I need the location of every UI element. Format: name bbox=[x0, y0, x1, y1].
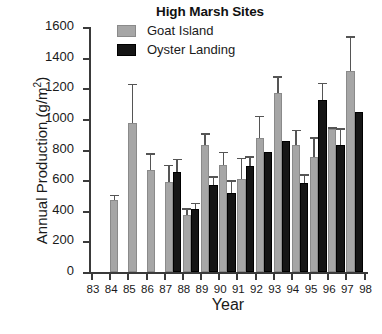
error-bar-cap bbox=[128, 84, 137, 86]
x-tick bbox=[364, 273, 366, 280]
x-tick-label: 92 bbox=[247, 283, 267, 295]
error-bar-line bbox=[295, 130, 297, 145]
bar-oyster-landing-93 bbox=[282, 141, 290, 272]
error-bar-line bbox=[168, 165, 170, 183]
error-bar-line bbox=[313, 137, 315, 157]
legend-item-oyster[interactable]: Oyster Landing bbox=[117, 41, 277, 58]
x-tick bbox=[291, 273, 293, 280]
error-bar-cap bbox=[273, 76, 282, 78]
y-tick: 400 bbox=[83, 211, 90, 213]
error-bar-cap bbox=[237, 158, 246, 160]
error-bar-line bbox=[277, 76, 279, 93]
y-tick: 1200 bbox=[83, 88, 90, 90]
error-bar-cap bbox=[245, 156, 254, 158]
y-axis-title-exponent: 2 bbox=[32, 82, 43, 88]
error-bar-line bbox=[204, 133, 206, 144]
bar-goat-island-97 bbox=[346, 71, 354, 272]
legend-label: Goat Island bbox=[147, 23, 214, 38]
error-bar-cap bbox=[146, 153, 155, 155]
error-bar-line bbox=[350, 36, 352, 70]
x-tick bbox=[91, 273, 93, 280]
chart-legend: Goat IslandOyster Landing bbox=[117, 22, 277, 60]
y-tick: 1400 bbox=[83, 58, 90, 60]
y-tick-label: 0 bbox=[67, 263, 74, 278]
error-bar-line bbox=[322, 83, 324, 100]
error-bar-cap bbox=[182, 208, 191, 210]
error-bar-cap bbox=[110, 195, 119, 197]
chart-figure: High Marsh Sites Annual Production (g/m2… bbox=[0, 0, 382, 334]
error-bar-line bbox=[259, 116, 261, 138]
legend-swatch-icon bbox=[117, 25, 136, 37]
bar-oyster-landing-92 bbox=[264, 152, 272, 272]
bar-goat-island-84 bbox=[110, 200, 118, 272]
bar-oyster-landing-89 bbox=[209, 185, 217, 272]
bar-goat-island-94 bbox=[292, 145, 300, 272]
error-bar-line bbox=[132, 84, 134, 123]
y-tick-label: 800 bbox=[52, 141, 74, 156]
y-tick: 200 bbox=[83, 241, 90, 243]
x-tick bbox=[109, 273, 111, 280]
x-tick bbox=[273, 273, 275, 280]
bar-goat-island-89 bbox=[201, 145, 209, 272]
bar-goat-island-87 bbox=[165, 182, 173, 272]
y-tick: 0 bbox=[83, 272, 90, 274]
bar-oyster-landing-91 bbox=[246, 166, 254, 272]
error-bar-cap bbox=[164, 165, 173, 167]
y-tick: 800 bbox=[83, 150, 90, 152]
bar-oyster-landing-94 bbox=[300, 183, 308, 272]
x-tick-label: 88 bbox=[174, 283, 194, 295]
error-bar-cap bbox=[300, 174, 309, 176]
bar-goat-island-96 bbox=[328, 129, 336, 272]
x-tick bbox=[236, 273, 238, 280]
error-bar-cap bbox=[191, 203, 200, 205]
bar-oyster-landing-97 bbox=[355, 112, 363, 272]
x-tick bbox=[200, 273, 202, 280]
error-bar-line bbox=[231, 180, 233, 193]
y-tick-label: 1000 bbox=[45, 110, 74, 125]
bar-goat-island-91 bbox=[237, 179, 245, 272]
x-tick-label: 93 bbox=[265, 283, 285, 295]
legend-label: Oyster Landing bbox=[147, 42, 235, 57]
error-bar-cap bbox=[255, 116, 264, 118]
error-bar-line bbox=[223, 152, 225, 165]
error-bar-line bbox=[150, 153, 152, 170]
bar-goat-island-95 bbox=[310, 157, 318, 272]
x-tick bbox=[309, 273, 311, 280]
y-tick: 1600 bbox=[83, 27, 90, 29]
x-tick-label: 94 bbox=[283, 283, 303, 295]
x-tick bbox=[218, 273, 220, 280]
x-tick bbox=[345, 273, 347, 280]
y-tick-label: 600 bbox=[52, 171, 74, 186]
x-axis-line bbox=[89, 272, 368, 274]
error-bar-cap bbox=[292, 130, 301, 132]
x-tick-label: 89 bbox=[192, 283, 212, 295]
error-bar-cap bbox=[346, 36, 355, 38]
legend-item-goat[interactable]: Goat Island bbox=[117, 22, 277, 39]
y-tick-label: 400 bbox=[52, 202, 74, 217]
y-tick-label: 1200 bbox=[45, 79, 74, 94]
bar-oyster-landing-95 bbox=[318, 100, 326, 272]
x-tick-label: 97 bbox=[337, 283, 357, 295]
bar-oyster-landing-90 bbox=[227, 193, 235, 272]
bar-goat-island-93 bbox=[274, 93, 282, 272]
x-tick-label: 86 bbox=[138, 283, 158, 295]
x-tick-label: 85 bbox=[119, 283, 139, 295]
bar-oyster-landing-88 bbox=[191, 209, 199, 272]
error-bar-cap bbox=[336, 128, 345, 130]
legend-swatch-icon bbox=[117, 44, 136, 56]
bar-goat-island-88 bbox=[183, 215, 191, 272]
bar-oyster-landing-87 bbox=[173, 172, 181, 272]
x-tick-label: 98 bbox=[356, 283, 376, 295]
y-tick-label: 200 bbox=[52, 232, 74, 247]
x-tick bbox=[127, 273, 129, 280]
error-bar-cap bbox=[201, 133, 210, 135]
plot-area: 02004006008001000120014001600 8384858687… bbox=[89, 27, 367, 272]
x-tick bbox=[255, 273, 257, 280]
error-bar-line bbox=[241, 158, 243, 179]
error-bar-cap bbox=[318, 83, 327, 85]
x-tick bbox=[146, 273, 148, 280]
x-tick-label: 87 bbox=[156, 283, 176, 295]
x-axis-title: Year bbox=[89, 296, 367, 314]
bar-goat-island-92 bbox=[256, 138, 264, 272]
error-bar-cap bbox=[219, 152, 228, 154]
